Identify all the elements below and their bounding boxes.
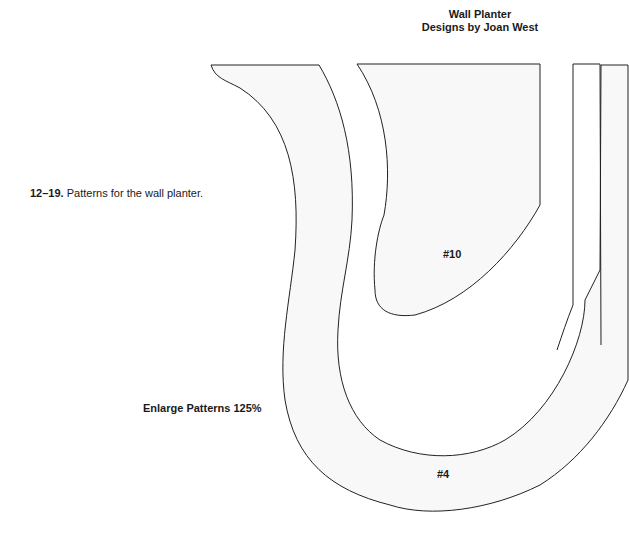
pattern-10-shape	[357, 64, 540, 316]
pattern-10-label: #10	[443, 248, 461, 260]
pattern-diagram	[0, 0, 629, 537]
pattern-4-label: #4	[437, 468, 449, 480]
